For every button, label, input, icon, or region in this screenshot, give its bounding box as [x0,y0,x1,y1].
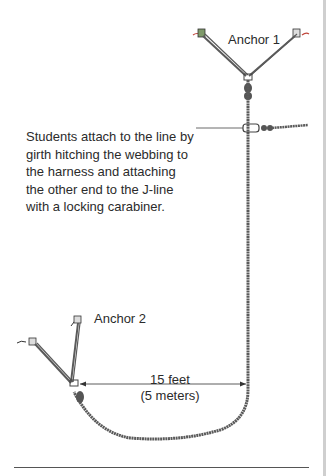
page-right-border [323,0,326,476]
anchor-2-label: Anchor 2 [94,310,146,327]
attachment-description: Students attach to the line by girth hit… [26,128,196,216]
carabiner-icon [196,124,308,132]
rope-illustration [0,0,335,476]
j-line-diagram: Anchor 1 Anchor 2 Students attach to the… [0,0,335,476]
bottom-divider [14,467,309,468]
anchor-1-label: Anchor 1 [228,31,280,48]
distance-label-feet: 15 feet [120,372,220,388]
distance-label-meters: (5 meters) [120,388,220,404]
anchor-2-icon [17,316,84,403]
